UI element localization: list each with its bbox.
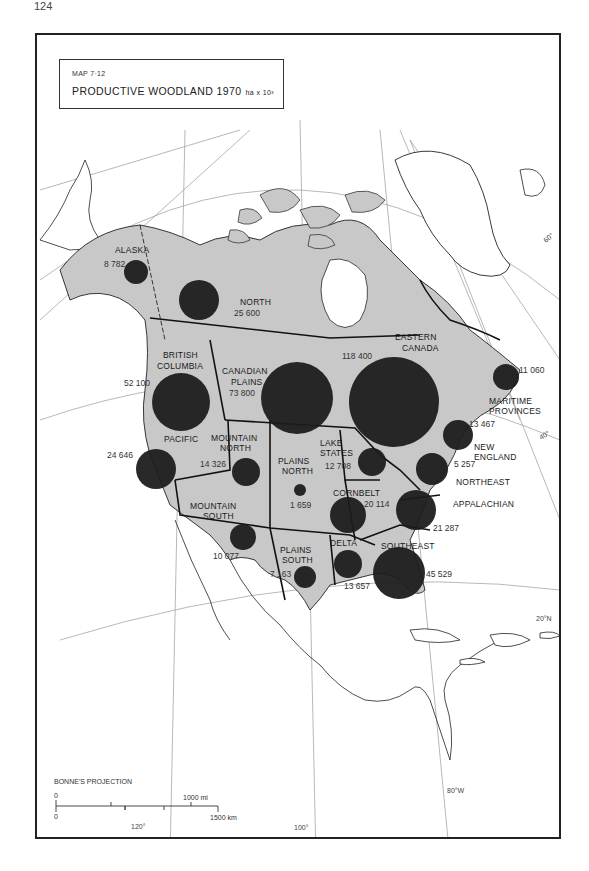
label-ne-2: ENGLAND: [474, 452, 517, 462]
label-ne-1: NEW: [474, 442, 494, 452]
lon-120-label: 120°: [131, 823, 146, 830]
circle-mountain-south: [230, 524, 256, 550]
label-ec-1: EASTERN: [395, 332, 437, 342]
lon-100-label: 100°: [294, 824, 309, 831]
value-mountain-south: 10 077: [213, 551, 239, 561]
label-appalachian: APPALACHIAN: [453, 499, 514, 509]
value-southeast: 45 529: [426, 569, 452, 579]
circle-maritime-provinces: [493, 364, 519, 390]
lat-20-label: 20°N: [536, 615, 552, 622]
value-british-columbia: 52 100: [124, 378, 150, 388]
circle-southeast: [373, 547, 425, 599]
lat-60-label: 60°: [542, 231, 555, 243]
label-mp-2: PROVINCES: [489, 406, 541, 416]
label-alaska: ALASKA: [115, 245, 149, 255]
circle-mountain-north: [232, 458, 260, 486]
circle-northeast: [416, 453, 448, 485]
circle-plains-south: [294, 566, 316, 588]
label-bc-2: COLUMBIA: [157, 361, 203, 371]
circle-plains-north: [294, 484, 306, 496]
circle-british-columbia: [152, 373, 210, 431]
caribbean-islands: [410, 629, 560, 665]
label-ls-1: LAKE: [320, 438, 343, 448]
label-mn-1: MOUNTAIN: [211, 433, 257, 443]
value-cornbelt: 20 114: [364, 499, 390, 509]
map-units: ha x 10³: [245, 89, 274, 96]
lon-80-label: 80°W: [447, 787, 465, 794]
value-lake-states: 12 708: [325, 461, 351, 471]
projection-label: BONNE'S PROJECTION: [54, 778, 132, 785]
map-title-box: MAP 7·12 PRODUCTIVE WOODLAND 1970ha x 10…: [59, 59, 284, 109]
circle-delta: [334, 550, 362, 578]
value-pacific: 24 646: [107, 450, 133, 460]
value-mountain-north: 14 326: [200, 459, 226, 469]
label-cp-2: PLAINS: [231, 377, 263, 387]
label-mn-2: NORTH: [220, 443, 251, 453]
label-pn-1: PLAINS: [278, 456, 310, 466]
label-pn-2: NORTH: [282, 466, 313, 476]
map-title: PRODUCTIVE WOODLAND 1970ha x 10³: [72, 85, 274, 97]
value-north: 25 600: [234, 308, 260, 318]
value-new-england: 13 467: [469, 419, 495, 429]
circle-canadian-plains: [261, 362, 333, 434]
circle-cornbelt: [330, 497, 366, 533]
label-ec-2: CANADA: [402, 343, 439, 353]
label-pacific: PACIFIC: [164, 434, 198, 444]
label-ps-2: SOUTH: [282, 555, 313, 565]
value-appalachian: 21 287: [433, 523, 459, 533]
value-plains-south: 7 163: [270, 569, 292, 579]
map-canvas: ALASKA NORTH BRITISH COLUMBIA CANADIAN P…: [0, 0, 589, 871]
hudson-bay: [321, 259, 368, 328]
scale-bar: [56, 800, 218, 812]
map-title-text: PRODUCTIVE WOODLAND 1970: [72, 85, 241, 97]
value-alaska: 8 782: [104, 259, 126, 269]
value-northeast: 5 257: [454, 459, 476, 469]
circle-pacific: [136, 449, 176, 489]
label-north: NORTH: [240, 297, 271, 307]
scale-miles-label: 1000 mi: [183, 794, 208, 801]
label-mp-1: MARITIME: [489, 396, 532, 406]
value-maritime-provinces: 11 060: [519, 365, 545, 375]
circle-alaska: [124, 260, 148, 284]
label-bc-1: BRITISH: [163, 350, 198, 360]
value-delta: 13 657: [344, 581, 370, 591]
label-delta: DELTA: [330, 538, 357, 548]
lat-40-label: 40°: [538, 429, 551, 440]
circle-eastern-canada: [349, 357, 439, 447]
value-eastern-canada: 118 400: [342, 351, 372, 361]
greenland-outline: [395, 151, 510, 276]
label-cornbelt: CORNBELT: [333, 488, 380, 498]
circle-north: [179, 280, 219, 320]
scale-miles-zero: 0: [54, 792, 58, 799]
map-number: MAP 7·12: [72, 70, 105, 77]
label-ms-2: SOUTH: [203, 511, 234, 521]
circle-appalachian: [396, 490, 436, 530]
label-ps-1: PLAINS: [280, 545, 312, 555]
scale-km-zero: 0: [54, 813, 58, 820]
label-cp-1: CANADIAN: [222, 366, 268, 376]
label-southeast: SOUTHEAST: [381, 541, 435, 551]
label-ms-1: MOUNTAIN: [190, 501, 236, 511]
value-plains-north: 1 659: [290, 500, 312, 510]
label-northeast: NORTHEAST: [456, 477, 510, 487]
circle-lake-states: [358, 448, 386, 476]
scale-km-label: 1500 km: [210, 814, 237, 821]
value-canadian-plains: 73 800: [229, 388, 255, 398]
label-ls-2: STATES: [320, 448, 353, 458]
